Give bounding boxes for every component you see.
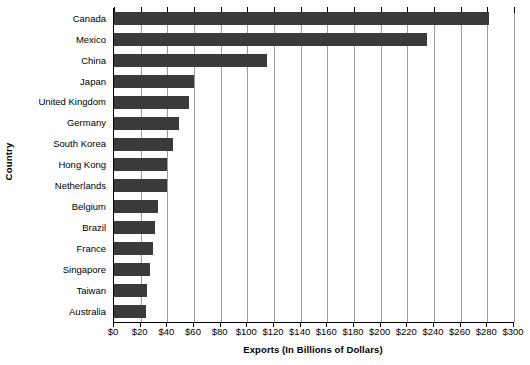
y-axis-tick-label: Taiwan xyxy=(18,280,111,301)
y-axis-tick-labels: CanadaMexicoChinaJapanUnited KingdomGerm… xyxy=(18,8,111,322)
bar-row xyxy=(114,301,514,322)
bar-row xyxy=(114,71,514,92)
bar-row xyxy=(114,113,514,134)
x-axis-tick-label: $200 xyxy=(369,327,390,337)
y-axis-tick-label: Hong Kong xyxy=(18,155,111,176)
y-axis-tick-label: Mexico xyxy=(18,29,111,50)
y-axis-tick-label: Canada xyxy=(18,8,111,29)
bar-row xyxy=(114,196,514,217)
y-axis-title-text: Country xyxy=(4,142,15,180)
y-axis-tick-label: Singapore xyxy=(18,259,111,280)
y-axis-tick-label: United Kingdom xyxy=(18,92,111,113)
bar xyxy=(114,75,194,88)
x-axis-tick-label: $40 xyxy=(158,327,174,337)
plot-area xyxy=(113,8,514,323)
y-axis-tick-label: South Korea xyxy=(18,134,111,155)
y-axis-tick-label: Brazil xyxy=(18,217,111,238)
x-axis-tick-label: $180 xyxy=(342,327,363,337)
bar xyxy=(114,221,155,234)
y-axis-tick-label: Belgium xyxy=(18,196,111,217)
bar xyxy=(114,54,267,67)
x-axis-tick-labels: $0$20$40$60$80$100$120$140$160$180$200$2… xyxy=(113,327,513,340)
x-axis-tick-label: $80 xyxy=(212,327,228,337)
bar-row xyxy=(114,134,514,155)
x-axis-tick-label: $160 xyxy=(316,327,337,337)
x-axis-tick-label: $220 xyxy=(396,327,417,337)
bar-row xyxy=(114,8,514,29)
x-axis-title: Exports (In Billions of Dollars) xyxy=(113,344,513,355)
bar-row xyxy=(114,29,514,50)
bar-row xyxy=(114,175,514,196)
x-axis-tick-label: $280 xyxy=(476,327,497,337)
bar-row xyxy=(114,50,514,71)
y-axis-title: Country xyxy=(0,0,18,322)
bar xyxy=(114,33,427,46)
y-axis-tick-label: Japan xyxy=(18,71,111,92)
x-axis-tick-label: $0 xyxy=(108,327,119,337)
bar-row xyxy=(114,259,514,280)
gridline xyxy=(514,8,515,322)
bar xyxy=(114,117,179,130)
bar xyxy=(114,138,173,151)
bar-row xyxy=(114,280,514,301)
y-axis-tick-label: Australia xyxy=(18,301,111,322)
y-axis-tick-label: China xyxy=(18,50,111,71)
bar xyxy=(114,179,167,192)
bar xyxy=(114,263,150,276)
bar-row xyxy=(114,238,514,259)
bar xyxy=(114,158,167,171)
y-axis-tick-label: France xyxy=(18,238,111,259)
bar xyxy=(114,242,153,255)
x-axis-tick-label: $60 xyxy=(185,327,201,337)
bar xyxy=(114,305,146,318)
bar-row xyxy=(114,92,514,113)
x-axis-tick-label: $260 xyxy=(449,327,470,337)
x-axis-tick-label: $300 xyxy=(502,327,523,337)
axis-tick xyxy=(514,7,515,13)
x-axis-tick-label: $20 xyxy=(132,327,148,337)
x-axis-tick-label: $240 xyxy=(422,327,443,337)
x-axis-tick-label: $140 xyxy=(289,327,310,337)
bar xyxy=(114,96,189,109)
bar-row xyxy=(114,217,514,238)
x-axis-tick-label: $120 xyxy=(262,327,283,337)
bar-row xyxy=(114,155,514,176)
x-axis-tick-label: $100 xyxy=(236,327,257,337)
y-axis-tick-label: Netherlands xyxy=(18,176,111,197)
bar xyxy=(114,284,147,297)
y-axis-tick-label: Germany xyxy=(18,113,111,134)
bar xyxy=(114,200,158,213)
bar xyxy=(114,12,489,25)
bar-chart: Country CanadaMexicoChinaJapanUnited Kin… xyxy=(0,0,530,365)
bar-series xyxy=(114,8,514,322)
